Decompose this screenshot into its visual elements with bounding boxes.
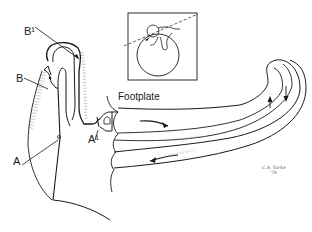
- label-b-prime: B¹: [24, 26, 35, 37]
- label-a-prime: A¹: [88, 134, 99, 145]
- ear-diagram: B¹ B A A¹ Footplate C.A. Yorke '78: [0, 0, 312, 232]
- ossicle-outline: [30, 43, 100, 130]
- diagram-drawing: [0, 0, 312, 232]
- label-footplate: Footplate: [118, 92, 160, 102]
- label-a: A: [13, 156, 20, 167]
- inset-panel: [124, 13, 198, 80]
- artist-signature: C.A. Yorke '78: [262, 166, 286, 176]
- signature-year: '78: [262, 171, 286, 176]
- stapes-footplate: [97, 96, 118, 131]
- label-b: B: [16, 73, 23, 84]
